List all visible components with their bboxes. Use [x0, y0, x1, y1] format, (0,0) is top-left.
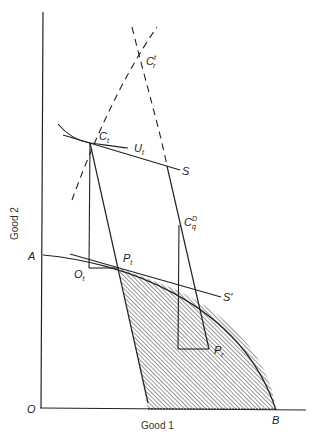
label-c-r-t: Ctr: [146, 54, 157, 69]
price-line-s: [63, 135, 180, 170]
label-c-t: Ct: [99, 130, 110, 144]
y-axis-label: Good 2: [9, 207, 20, 240]
label-origin: O: [27, 403, 36, 415]
label-s: S: [182, 165, 190, 177]
triangle-vertical-t: [89, 143, 90, 268]
label-o-t: Ot: [74, 268, 86, 282]
label-b: B: [272, 414, 279, 426]
x-axis-label: Good 1: [141, 420, 174, 431]
trade-line-left: [90, 143, 148, 403]
label-p-t: Pt: [123, 252, 133, 266]
dashed-curve-rising: [72, 27, 157, 200]
y-axis: [41, 12, 43, 408]
hatched-trade-region: [119, 268, 276, 410]
label-a: A: [27, 250, 35, 262]
label-u-t: Ut: [134, 142, 145, 156]
label-s-prime: S': [223, 291, 233, 303]
label-c-q-d: CDq: [184, 215, 197, 231]
trade-diagram: Ctr Ct Ut S CDq A Pt Ot S' Pr O B Good 1…: [0, 0, 322, 439]
